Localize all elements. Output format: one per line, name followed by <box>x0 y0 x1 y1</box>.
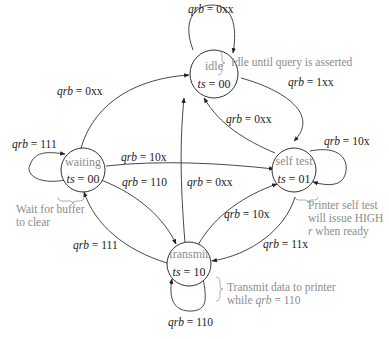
state-waiting-name: waiting <box>65 155 101 169</box>
note-transmit-line1: Transmit data to printer <box>227 281 336 294</box>
edge-waiting-to-transmit <box>101 180 176 244</box>
state-waiting-ts: ts = 00 <box>67 172 100 186</box>
label-transmit-loop: qrb = 110 <box>168 316 213 329</box>
state-waiting: waiting ts = 00 <box>61 148 105 192</box>
label-idle-loop: qrb = 0xx <box>188 3 234 16</box>
state-self-test: self test ts = 01 <box>272 148 316 192</box>
note-idle: Idle until query is asserted <box>231 56 353 69</box>
label-waiting-to-transmit: qrb = 110 <box>122 176 167 189</box>
state-diagram: idle ts = 00 waiting ts = 00 self test t… <box>0 0 389 339</box>
state-transmit: transmit ts = 10 <box>167 242 211 286</box>
label-transmit-to-selftest: qrb = 10x <box>224 208 270 221</box>
label-idle-to-selftest: qrb = 1xx <box>288 76 334 89</box>
label-waiting-to-idle: qrb = 0xx <box>57 85 103 98</box>
note-waiting-line2: to clear <box>16 216 50 228</box>
state-selftest-name: self test <box>276 154 314 168</box>
note-transmit-line2: while qrb = 110 <box>227 294 301 307</box>
label-transmit-to-waiting: qrb = 111 <box>73 239 118 252</box>
edge-transmit-to-waiting <box>84 192 167 263</box>
label-waiting-to-selftest: qrb = 10x <box>121 151 167 164</box>
label-selftest-to-transmit: qrb = 11x <box>263 238 308 251</box>
label-selftest-to-idle: qrb = 0xx <box>226 113 272 126</box>
state-transmit-ts: ts = 10 <box>173 265 206 279</box>
note-selftest-line3: r when ready <box>308 225 369 238</box>
state-idle-name: idle <box>205 59 223 73</box>
brace-transmit <box>216 277 223 301</box>
label-selftest-loop: qrb = 10x <box>324 135 370 148</box>
edge-waiting-to-selftest <box>106 163 274 169</box>
label-transmit-to-idle: qrb = 0xx <box>187 176 233 189</box>
note-selftest-line1: Printer self test <box>308 199 378 211</box>
edge-selftest-to-idle <box>204 98 275 153</box>
label-waiting-loop: qrb = 111 <box>12 138 57 151</box>
state-selftest-ts: ts = 01 <box>278 172 311 186</box>
edge-selftest-to-transmit <box>212 197 295 261</box>
state-idle-ts: ts = 00 <box>198 77 231 91</box>
note-waiting-line1: Wait for buffer <box>16 203 85 215</box>
edge-waiting-loop <box>29 153 65 182</box>
edge-transmit-to-idle <box>181 98 185 243</box>
state-transmit-name: transmit <box>169 247 209 261</box>
note-selftest-line2: will issue HIGH <box>308 212 383 224</box>
